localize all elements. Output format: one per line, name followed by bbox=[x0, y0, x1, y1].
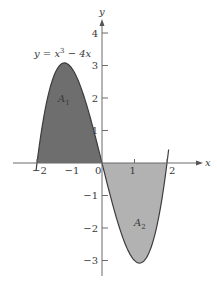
x-tick-label: 1 bbox=[130, 165, 136, 176]
area-under-curve-chart: x y −2−1012 −3−2−11234 y = x3 − 4x A1 A2 bbox=[0, 0, 217, 295]
y-tick-label: −3 bbox=[83, 255, 98, 266]
y-tick-label: 4 bbox=[92, 28, 98, 39]
x-tick-label: 0 bbox=[95, 165, 101, 176]
x-axis-label: x bbox=[205, 157, 211, 168]
function-label: y = x3 − 4x bbox=[33, 47, 92, 59]
y-tick-label: 1 bbox=[92, 125, 98, 136]
y-tick-label: −2 bbox=[83, 223, 98, 234]
x-tick-label: −2 bbox=[32, 165, 47, 176]
y-tick-label: −1 bbox=[83, 190, 98, 201]
y-axis-arrow-icon bbox=[100, 19, 105, 26]
x-tick-label: 2 bbox=[169, 165, 175, 176]
region-a1 bbox=[37, 63, 102, 163]
y-axis-label: y bbox=[98, 6, 105, 17]
x-axis-arrow-icon bbox=[196, 161, 203, 166]
y-tick-label: 2 bbox=[92, 93, 98, 104]
y-tick-label: 3 bbox=[92, 60, 98, 71]
x-tick-label: −1 bbox=[65, 165, 80, 176]
region-a2 bbox=[102, 163, 167, 263]
